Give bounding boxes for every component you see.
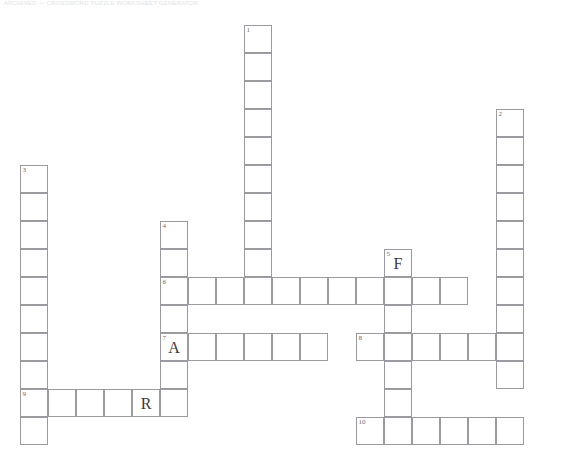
crossword-cell[interactable] [412,277,440,305]
crossword-cell[interactable] [244,221,272,249]
crossword-cell[interactable] [48,389,76,417]
crossword-cell[interactable]: 3 [20,165,48,193]
crossword-cell[interactable] [188,277,216,305]
crossword-cell[interactable] [20,193,48,221]
crossword-cell[interactable] [244,249,272,277]
crossword-cell[interactable] [160,305,188,333]
crossword-cell[interactable] [160,389,188,417]
crossword-cell[interactable] [496,361,524,389]
crossword-cell[interactable] [20,277,48,305]
crossword-cell[interactable]: 2 [496,109,524,137]
crossword-cell[interactable] [20,221,48,249]
crossword-cell[interactable] [468,417,496,445]
crossword-cell[interactable] [356,277,384,305]
cell-letter: F [385,250,411,276]
crossword-cell[interactable] [20,361,48,389]
clue-number: 6 [163,278,167,286]
crossword-cell[interactable]: R [132,389,160,417]
crossword-grid[interactable]: 12345F67A89R10 [0,0,570,476]
crossword-cell[interactable] [244,165,272,193]
crossword-cell[interactable] [272,333,300,361]
crossword-cell[interactable] [76,389,104,417]
cell-letter: R [133,390,159,416]
cell-letter: A [161,334,187,360]
crossword-cell[interactable] [384,333,412,361]
crossword-cell[interactable] [216,333,244,361]
crossword-cell[interactable] [160,361,188,389]
crossword-cell[interactable] [384,389,412,417]
crossword-cell[interactable] [328,277,356,305]
crossword-cell[interactable] [412,333,440,361]
crossword-cell[interactable] [384,305,412,333]
crossword-cell[interactable] [496,249,524,277]
crossword-cell[interactable] [244,53,272,81]
clue-number: 4 [163,222,167,230]
crossword-cell[interactable]: 8 [356,333,384,361]
crossword-cell[interactable] [20,333,48,361]
crossword-cell[interactable] [496,165,524,193]
crossword-cell[interactable]: 5F [384,249,412,277]
crossword-cell[interactable] [244,137,272,165]
crossword-cell[interactable] [496,277,524,305]
clue-number: 10 [359,418,366,426]
crossword-cell[interactable]: 6 [160,277,188,305]
crossword-cell[interactable] [496,193,524,221]
crossword-cell[interactable] [188,333,216,361]
crossword-cell[interactable] [216,277,244,305]
crossword-cell[interactable] [496,221,524,249]
crossword-cell[interactable] [160,249,188,277]
crossword-cell[interactable] [244,193,272,221]
clue-number: 2 [499,110,503,118]
crossword-cell[interactable] [384,417,412,445]
crossword-cell[interactable] [300,333,328,361]
crossword-cell[interactable]: 1 [244,25,272,53]
clue-number: 3 [23,166,27,174]
crossword-cell[interactable] [244,109,272,137]
crossword-cell[interactable]: 9 [20,389,48,417]
crossword-cell[interactable] [272,277,300,305]
crossword-cell[interactable]: 4 [160,221,188,249]
crossword-cell[interactable] [384,277,412,305]
clue-number: 1 [247,26,251,34]
crossword-cell[interactable]: 10 [356,417,384,445]
crossword-cell[interactable] [104,389,132,417]
crossword-cell[interactable] [496,417,524,445]
crossword-cell[interactable] [440,277,468,305]
crossword-cell[interactable] [20,305,48,333]
crossword-cell[interactable] [300,277,328,305]
crossword-cell[interactable] [244,333,272,361]
crossword-cell[interactable]: 7A [160,333,188,361]
crossword-cell[interactable] [244,81,272,109]
crossword-cell[interactable] [20,249,48,277]
crossword-cell[interactable] [496,137,524,165]
clue-number: 9 [23,390,27,398]
crossword-cell[interactable] [244,277,272,305]
crossword-cell[interactable] [440,333,468,361]
crossword-cell[interactable] [496,305,524,333]
crossword-cell[interactable] [20,417,48,445]
crossword-cell[interactable] [384,361,412,389]
crossword-cell[interactable] [412,417,440,445]
crossword-cell[interactable] [468,333,496,361]
crossword-cell[interactable] [440,417,468,445]
crossword-cell[interactable] [496,333,524,361]
clue-number: 8 [359,334,363,342]
